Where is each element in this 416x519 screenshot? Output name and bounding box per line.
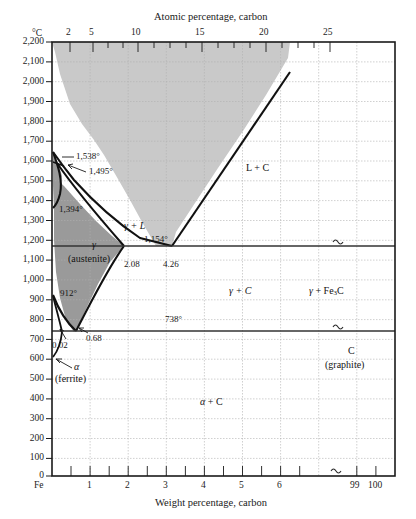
- y-tick-1600: 1,600: [6, 156, 44, 166]
- region-label-austenite-gamma: γ: [92, 240, 96, 250]
- y-tick-1400: 1,400: [6, 196, 44, 206]
- y-tick-600: 600: [6, 354, 44, 364]
- annotation-1538: 1,538°: [76, 152, 100, 161]
- region-label-austenite-name: (austenite): [68, 254, 110, 264]
- bottom-tick-100: 100: [368, 481, 382, 491]
- annotation-1154: 1,154°: [144, 235, 168, 244]
- origin-fe-label: Fe: [34, 481, 44, 491]
- y-tick-1000: 1,000: [6, 275, 44, 285]
- region-label-gamma-carbon: γ + C: [229, 286, 251, 296]
- annotation-738: 738°: [165, 315, 182, 324]
- iron-carbon-phase-diagram: Atomic percentage, carbon °C 2,200 2,100…: [0, 0, 416, 519]
- region-label-ferrite-alpha: α: [74, 362, 79, 372]
- phase-diagram-plot: [0, 0, 416, 519]
- y-tick-2000: 2,000: [6, 77, 44, 87]
- top-axis-title: Atomic percentage, carbon: [154, 12, 267, 23]
- y-tick-300: 300: [6, 414, 44, 424]
- region-label-graphite-name: (graphite): [325, 360, 364, 370]
- y-tick-1100: 1,100: [6, 255, 44, 265]
- bottom-tick-3: 3: [163, 481, 168, 491]
- top-tick-2: 2: [66, 28, 71, 38]
- bottom-tick-6: 6: [277, 481, 282, 491]
- region-label-gamma-fe3c: γ + Fe3C: [309, 286, 344, 297]
- top-tick-5: 5: [89, 28, 94, 38]
- annotation-002: 0.02: [52, 341, 68, 350]
- y-tick-1200: 1,200: [6, 236, 44, 246]
- region-label-graphite-c: C: [348, 346, 355, 356]
- bottom-tick-99: 99: [350, 481, 360, 491]
- bottom-tick-4: 4: [201, 481, 206, 491]
- region-label-ferrite-name: (ferrite): [55, 374, 86, 384]
- y-tick-400: 400: [6, 394, 44, 404]
- region-label-gamma-liquid: γ + L: [124, 221, 145, 231]
- top-tick-20: 20: [259, 28, 269, 38]
- top-tick-15: 15: [195, 28, 205, 38]
- bottom-axis-title: Weight percentage, carbon: [155, 498, 267, 509]
- top-tick-25: 25: [323, 28, 333, 38]
- top-tick-10: 10: [131, 28, 141, 38]
- y-tick-900: 900: [6, 295, 44, 305]
- y-tick-1700: 1,700: [6, 136, 44, 146]
- annotation-068: 0.68: [86, 334, 102, 343]
- region-label-alpha-carbon: α + C: [200, 397, 223, 407]
- y-tick-800: 800: [6, 315, 44, 325]
- bottom-tick-5: 5: [239, 481, 244, 491]
- annotation-1495: 1,495°: [89, 167, 113, 176]
- bottom-tick-1: 1: [87, 481, 92, 491]
- y-tick-1900: 1,900: [6, 97, 44, 107]
- y-tick-500: 500: [6, 374, 44, 384]
- y-tick-2200: 2,200: [6, 37, 44, 47]
- annotation-912: 912°: [60, 289, 77, 298]
- bottom-tick-2: 2: [125, 481, 130, 491]
- y-tick-100: 100: [6, 453, 44, 463]
- annotation-1394: 1,394°: [59, 205, 83, 214]
- region-label-liquid-carbon: L + C: [246, 163, 269, 173]
- annotation-208: 2.08: [124, 260, 140, 269]
- y-axis-ticks: [46, 42, 52, 476]
- y-tick-700: 700: [6, 335, 44, 345]
- y-tick-2100: 2,100: [6, 57, 44, 67]
- y-tick-1500: 1,500: [6, 176, 44, 186]
- annotation-426: 4.26: [163, 260, 179, 269]
- y-tick-1300: 1,300: [6, 216, 44, 226]
- y-tick-1800: 1,800: [6, 117, 44, 127]
- y-tick-200: 200: [6, 434, 44, 444]
